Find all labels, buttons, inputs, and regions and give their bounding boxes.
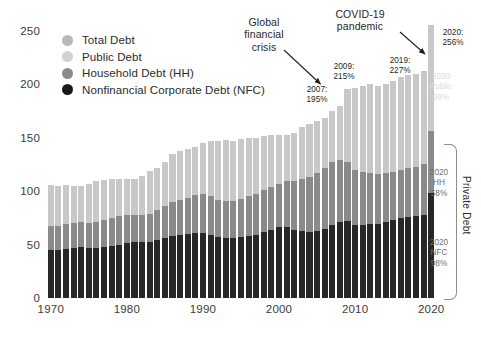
bar-segment	[192, 232, 198, 298]
bar-segment	[352, 225, 358, 298]
bar-segment	[360, 225, 366, 298]
x-axis: 197019801990200020102020	[0, 303, 481, 323]
bar-segment	[329, 225, 335, 298]
bar-segment	[314, 121, 320, 173]
bar-segment	[78, 186, 84, 222]
bar-segment	[185, 233, 191, 298]
bar-segment	[63, 185, 69, 224]
bar-segment	[48, 226, 54, 250]
bar-segment	[109, 245, 115, 298]
bar-segment	[299, 127, 305, 179]
y-tick-label: 200	[20, 78, 40, 90]
chart-root: 250200150100500 197019801990200020102020…	[0, 0, 481, 339]
bar-1979	[116, 179, 122, 298]
bar-segment	[177, 234, 183, 298]
bar-segment	[390, 219, 396, 298]
legend-item-2[interactable]: Household Debt (HH)	[62, 65, 265, 82]
bar-segment	[322, 118, 328, 168]
bar-1976	[93, 181, 99, 298]
bar-segment	[55, 186, 61, 226]
legend-item-label: Total Debt	[82, 34, 135, 46]
bar-1972	[63, 186, 69, 298]
bar-segment	[48, 185, 54, 226]
value-label-2007: 2007: 195%	[300, 85, 334, 105]
legend-item-label: Public Debt	[82, 51, 142, 63]
bar-segment	[344, 162, 350, 221]
private-debt-bracket	[444, 144, 457, 300]
bar-1995	[238, 140, 244, 298]
bar-1994	[230, 142, 236, 298]
bar-1992	[215, 142, 221, 298]
bar-segment	[284, 227, 290, 298]
bar-segment	[86, 223, 92, 248]
bar-segment	[169, 154, 175, 202]
bar-segment	[238, 198, 244, 237]
covid-annotation: COVID-19 pandemic	[318, 8, 402, 33]
bar-segment	[246, 138, 252, 196]
bar-segment	[223, 238, 229, 298]
bar-2016	[398, 78, 404, 298]
y-axis: 250200150100500	[0, 0, 47, 339]
bar-segment	[177, 151, 183, 200]
bar-2010	[352, 88, 358, 298]
x-tick-label: 1980	[114, 303, 140, 315]
bar-segment	[208, 141, 214, 196]
bar-segment	[230, 200, 236, 238]
bar-segment	[208, 196, 214, 235]
bar-segment	[337, 159, 343, 222]
bar-2009	[344, 90, 350, 299]
bar-segment	[253, 234, 259, 298]
bar-segment	[101, 246, 107, 298]
bar-segment	[101, 180, 107, 220]
bar-segment	[246, 196, 252, 236]
bar-2001	[284, 135, 290, 298]
bar-segment	[55, 249, 61, 298]
bar-segment	[367, 224, 373, 298]
bar-2008	[337, 107, 343, 298]
bar-segment	[215, 199, 221, 237]
bar-1990	[200, 144, 206, 298]
bar-1970	[48, 186, 54, 298]
bar-segment	[246, 235, 252, 298]
legend-item-3[interactable]: Nonfinancial Corporate Debt (NFC)	[62, 82, 265, 99]
bar-2007	[329, 112, 335, 298]
bar-segment	[223, 200, 229, 238]
bar-segment	[109, 217, 115, 245]
bar-segment	[116, 244, 122, 298]
bar-segment	[185, 149, 191, 198]
bar-segment	[405, 216, 411, 298]
bar-segment	[383, 84, 389, 173]
bar-1981	[131, 179, 137, 298]
bar-segment	[284, 135, 290, 182]
bar-segment	[238, 139, 244, 198]
bar-1985	[162, 162, 168, 298]
value-label-2019: 2019: 227%	[383, 56, 417, 76]
bar-segment	[375, 173, 381, 224]
bar-2015	[390, 82, 396, 298]
bar-segment	[63, 248, 69, 298]
bar-segment	[154, 168, 160, 210]
bar-segment	[329, 162, 335, 226]
bar-segment	[405, 75, 411, 168]
legend-swatch-icon	[62, 68, 73, 79]
bar-2004	[306, 125, 312, 298]
bar-segment	[352, 88, 358, 170]
bar-segment	[147, 242, 153, 298]
bar-2002	[291, 133, 297, 298]
bar-segment	[169, 201, 175, 236]
bar-segment	[131, 214, 137, 242]
bar-segment	[291, 133, 297, 182]
bar-segment	[276, 227, 282, 298]
bar-segment	[299, 230, 305, 298]
bar-1973	[71, 187, 77, 298]
bar-segment	[192, 147, 198, 196]
bar-segment	[162, 238, 168, 298]
bar-segment	[276, 135, 282, 184]
bar-segment	[306, 124, 312, 177]
bar-1975	[86, 185, 92, 298]
bar-1971	[55, 187, 61, 298]
bar-segment	[398, 77, 404, 170]
bar-1997	[253, 139, 259, 298]
bar-segment	[322, 228, 328, 298]
bar-segment	[131, 179, 137, 215]
